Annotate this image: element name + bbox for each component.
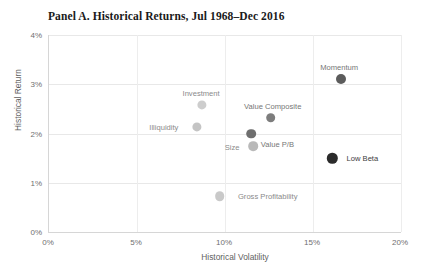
- gridline-vertical: [225, 35, 226, 232]
- scatter-point[interactable]: [336, 74, 346, 84]
- scatter-point[interactable]: [192, 123, 201, 132]
- x-axis-tick-label: 15%: [304, 238, 320, 247]
- x-axis-label-text: Historical Volatility: [201, 252, 269, 262]
- scatter-point-label: Low Beta: [347, 154, 379, 163]
- scatter-point-label: Investment: [183, 88, 220, 97]
- x-axis-label: Historical Volatility: [0, 252, 424, 262]
- scatter-point-label: Size: [225, 143, 240, 152]
- gridline-vertical: [313, 35, 314, 232]
- scatter-point[interactable]: [248, 142, 258, 152]
- scatter-point-label: Momentum: [320, 63, 358, 72]
- x-axis-tick-label: 20%: [392, 238, 408, 247]
- scatter-point[interactable]: [215, 191, 225, 201]
- y-axis-tick-label: 3%: [2, 80, 42, 89]
- scatter-point[interactable]: [247, 129, 257, 139]
- y-axis-tick-label: 4%: [2, 31, 42, 40]
- x-axis-tick-label: 0%: [42, 238, 54, 247]
- scatter-point-label: Gross Profitability: [238, 192, 298, 201]
- y-axis-tick-label: 2%: [2, 129, 42, 138]
- scatter-point-label: Illiquidity: [149, 123, 178, 132]
- y-axis-label: Historical Return: [13, 40, 23, 160]
- plot-area: MomentumInvestmentValue CompositeIlliqui…: [48, 35, 401, 233]
- x-axis-tick-label: 5%: [130, 238, 142, 247]
- x-axis-tick-label: 10%: [216, 238, 232, 247]
- scatter-chart-figure: Panel A. Historical Returns, Jul 1968–De…: [0, 0, 424, 278]
- scatter-point[interactable]: [266, 113, 276, 123]
- chart-title: Panel A. Historical Returns, Jul 1968–De…: [48, 10, 285, 22]
- y-axis-tick-label: 0%: [2, 228, 42, 237]
- scatter-point[interactable]: [198, 100, 207, 109]
- scatter-point-label: Value P/B: [261, 139, 294, 148]
- gridline-vertical: [137, 35, 138, 232]
- y-axis-tick-label: 1%: [2, 178, 42, 187]
- gridline-vertical: [401, 35, 402, 232]
- scatter-point[interactable]: [327, 153, 337, 163]
- scatter-point-label: Value Composite: [244, 101, 301, 110]
